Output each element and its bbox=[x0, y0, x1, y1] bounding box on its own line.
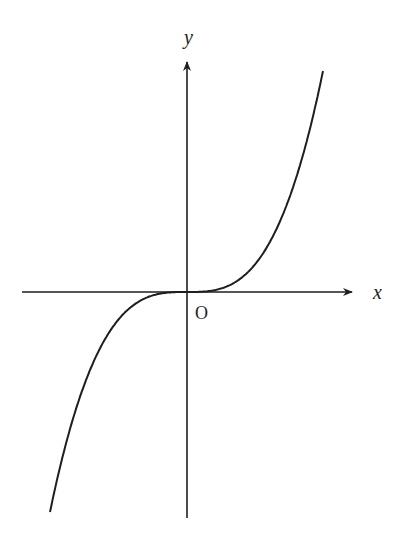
origin-label: O bbox=[195, 303, 208, 323]
x-axis-label: x bbox=[372, 281, 382, 303]
y-axis-label: y bbox=[182, 26, 193, 49]
cubic-graph: y x O bbox=[0, 0, 408, 549]
